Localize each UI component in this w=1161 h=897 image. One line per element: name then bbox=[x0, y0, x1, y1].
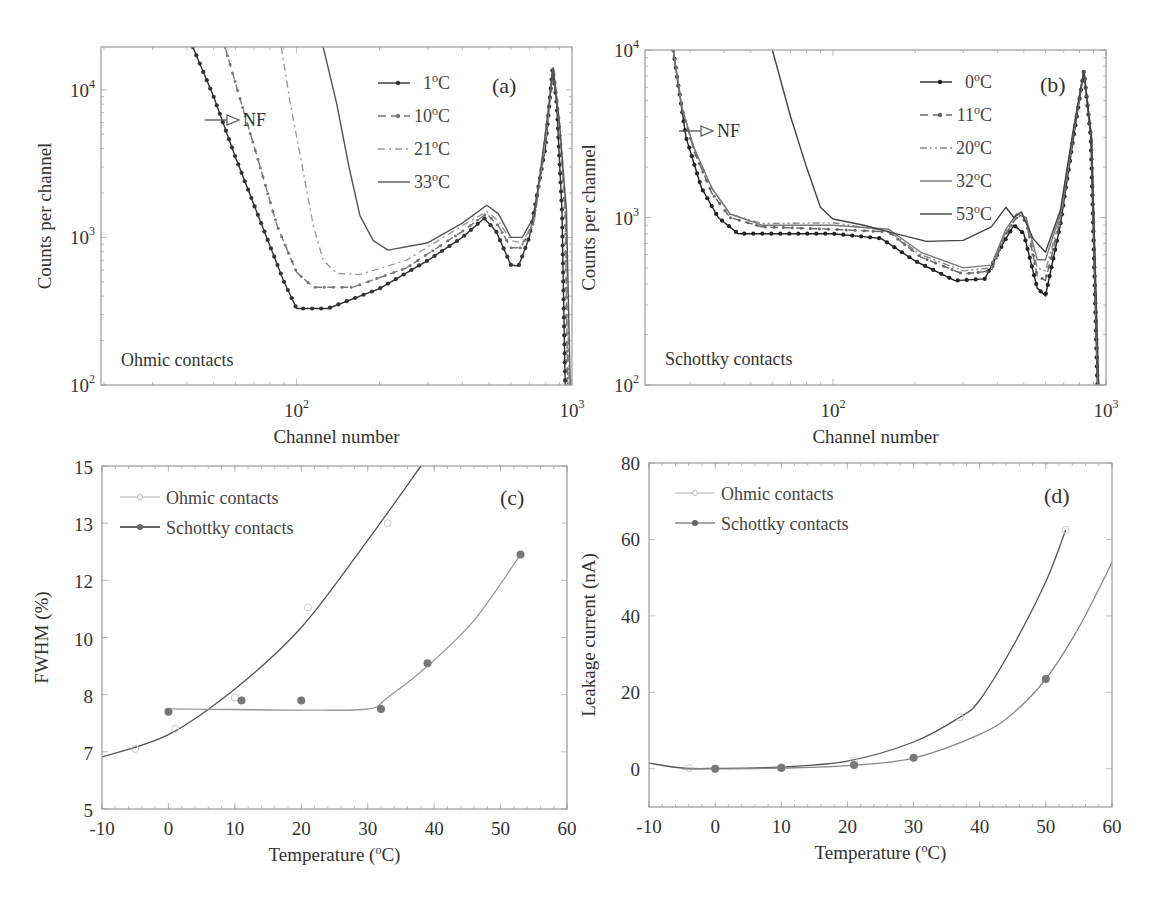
data-marker bbox=[791, 226, 794, 229]
data-marker bbox=[859, 234, 863, 238]
data-marker bbox=[212, 95, 216, 99]
data-marker bbox=[934, 261, 937, 264]
y-tick-label: 8 bbox=[84, 686, 94, 707]
data-marker bbox=[332, 286, 335, 289]
data-marker bbox=[409, 268, 413, 272]
data-marker bbox=[561, 243, 565, 247]
data-marker bbox=[900, 250, 904, 254]
data-marker bbox=[287, 252, 290, 255]
y-tick-label: 12 bbox=[74, 571, 93, 592]
nf-label: NF bbox=[717, 121, 740, 141]
data-marker bbox=[509, 263, 513, 267]
data-marker bbox=[274, 218, 277, 221]
legend-entry: 33oC bbox=[414, 170, 450, 192]
data-marker bbox=[729, 216, 732, 219]
data-marker bbox=[782, 226, 785, 229]
data-marker bbox=[896, 237, 899, 240]
schottky-data-point bbox=[424, 659, 432, 667]
data-marker bbox=[439, 244, 442, 247]
data-marker bbox=[718, 202, 721, 205]
data-marker bbox=[823, 232, 827, 236]
data-marker bbox=[291, 260, 294, 263]
data-marker bbox=[229, 63, 232, 66]
data-marker bbox=[461, 229, 464, 232]
data-marker bbox=[814, 232, 818, 236]
nf-label: NF bbox=[243, 110, 266, 130]
x-axis-label: Channel number bbox=[812, 426, 939, 447]
legend: Ohmic contactsSchottky contacts bbox=[675, 484, 848, 534]
data-marker bbox=[868, 235, 872, 239]
data-marker bbox=[432, 254, 436, 258]
data-marker bbox=[1045, 274, 1048, 277]
data-marker bbox=[1025, 247, 1029, 251]
data-marker bbox=[254, 149, 257, 152]
x-tick-label: 20 bbox=[292, 818, 311, 839]
data-marker bbox=[375, 277, 378, 280]
data-marker bbox=[892, 245, 896, 249]
x-axis-label: Channel number bbox=[273, 426, 400, 447]
data-marker bbox=[505, 239, 508, 242]
data-marker bbox=[1054, 239, 1057, 242]
data-marker bbox=[323, 286, 326, 289]
tick-label: 103 bbox=[70, 224, 95, 248]
data-marker bbox=[1028, 256, 1032, 260]
arrow-head-icon bbox=[227, 115, 239, 125]
data-marker bbox=[282, 280, 286, 284]
x-tick-label: 0 bbox=[164, 818, 174, 839]
data-marker bbox=[559, 198, 563, 202]
data-marker bbox=[234, 80, 237, 83]
data-marker bbox=[496, 223, 499, 226]
data-marker bbox=[923, 264, 927, 268]
data-marker bbox=[215, 103, 219, 107]
y-axis-label: Leakage current (nA) bbox=[578, 553, 600, 717]
data-marker bbox=[505, 255, 509, 259]
data-marker bbox=[469, 224, 472, 227]
data-marker bbox=[854, 229, 857, 232]
data-marker bbox=[277, 227, 280, 230]
data-marker bbox=[561, 279, 565, 283]
data-marker bbox=[300, 275, 303, 278]
schottky-fit-curve bbox=[682, 562, 1112, 768]
legend-entry: Ohmic contacts bbox=[166, 488, 278, 508]
data-marker bbox=[378, 286, 382, 290]
series-line-53Cc bbox=[772, 50, 1098, 385]
tick-label: 104 bbox=[614, 37, 639, 61]
legend-entry: 20oC bbox=[956, 136, 992, 158]
data-marker bbox=[239, 171, 243, 175]
legend-entry: 11oC bbox=[957, 103, 992, 125]
data-marker bbox=[727, 224, 731, 228]
data-marker bbox=[1050, 257, 1053, 260]
data-marker bbox=[1032, 273, 1036, 277]
data-marker bbox=[236, 162, 240, 166]
legend-entry: Schottky contacts bbox=[721, 514, 848, 534]
x-tick-label: 50 bbox=[491, 818, 510, 839]
schottky-data-point bbox=[297, 696, 305, 704]
data-marker bbox=[230, 146, 234, 150]
nf-arrow-annotation: NF bbox=[205, 110, 266, 130]
data-marker bbox=[1044, 292, 1048, 296]
data-marker bbox=[502, 246, 506, 250]
series-line-21Cc bbox=[281, 47, 569, 385]
data-marker bbox=[1035, 271, 1038, 274]
data-marker bbox=[523, 246, 527, 250]
panel-label: (a) bbox=[492, 73, 516, 98]
panel-a-spectrum-ohmic: 102103102103104Channel numberCounts per … bbox=[34, 45, 585, 447]
y-tick-label: 13 bbox=[74, 514, 93, 535]
data-marker bbox=[705, 196, 709, 200]
data-marker bbox=[261, 175, 264, 178]
data-marker bbox=[787, 232, 791, 236]
data-marker bbox=[266, 192, 269, 195]
contact-type-annotation: Ohmic contacts bbox=[121, 350, 233, 370]
legend-marker bbox=[396, 114, 400, 118]
schottky-data-point bbox=[517, 551, 525, 559]
y-tick-label: 20 bbox=[621, 682, 640, 703]
data-marker bbox=[520, 254, 524, 258]
data-marker bbox=[358, 283, 361, 286]
data-marker bbox=[850, 233, 854, 237]
data-marker bbox=[561, 252, 565, 256]
data-marker bbox=[510, 246, 513, 249]
x-tick-label: 50 bbox=[1036, 816, 1055, 837]
data-marker bbox=[290, 296, 294, 300]
data-marker bbox=[440, 249, 444, 253]
data-marker bbox=[361, 293, 365, 297]
